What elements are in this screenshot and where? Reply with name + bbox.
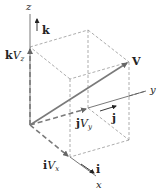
kvz-sub: z xyxy=(21,55,25,63)
ivx-label: iVx xyxy=(43,160,59,173)
y-axis-label: y xyxy=(150,85,156,95)
i-unit-arrow xyxy=(81,164,94,173)
y-axis-dash xyxy=(129,91,146,96)
kvz-label: kVz xyxy=(5,50,24,63)
x-component-vector xyxy=(30,125,68,156)
kvz-mag: V xyxy=(13,49,21,62)
jvy-mag: V xyxy=(80,117,88,130)
ivx-mag: V xyxy=(47,159,55,172)
z-axis-label: z xyxy=(26,2,31,12)
vector-v-label: V xyxy=(132,56,141,67)
ivx-sub: x xyxy=(55,165,59,173)
kvz-unit: k xyxy=(5,49,13,62)
vector-components-diagram xyxy=(0,0,167,195)
k-unit-label: k xyxy=(42,25,50,36)
j-unit-label: j xyxy=(112,113,116,124)
jvy-label: jVy xyxy=(76,118,92,131)
i-unit-label: i xyxy=(96,164,100,175)
jvy-sub: y xyxy=(88,123,92,131)
j-unit-arrow xyxy=(100,106,116,111)
x-axis-label: x xyxy=(96,180,102,190)
component-vectors xyxy=(30,49,86,156)
x-axis xyxy=(70,157,96,176)
